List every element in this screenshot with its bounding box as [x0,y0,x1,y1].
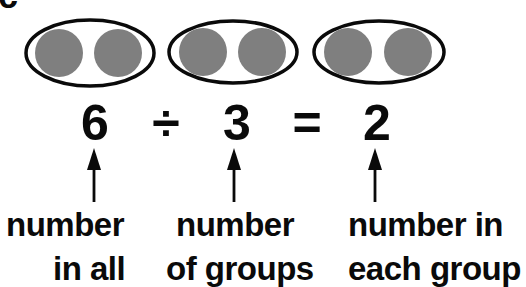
counter-circle [179,28,227,76]
counter-circle [384,28,432,76]
up-arrow-icon [365,148,385,202]
up-arrow-icon [84,148,104,202]
quotient-number: 2 [363,98,391,148]
divisor-number: 3 [223,98,251,148]
divisor-label-line2: of groups [166,252,314,285]
group-2 [169,21,297,83]
dividend-label-line2: in all [53,252,125,285]
quotient-label-line1: number in [348,208,503,241]
group-1 [26,20,154,86]
up-arrow-icon [224,148,244,202]
grouped-counters [0,0,526,100]
equals-sign: = [292,98,321,148]
group-3 [314,21,444,83]
dividend-number: 6 [81,98,109,148]
dividend-label-line1: number [6,208,124,241]
quotient-label-line2: each group [348,252,521,285]
division-sign: ÷ [152,98,179,148]
divisor-label-line1: number [176,208,294,241]
counter-circle [94,29,142,77]
counter-circle [35,29,83,77]
counter-circle [238,28,286,76]
counter-circle [324,28,372,76]
